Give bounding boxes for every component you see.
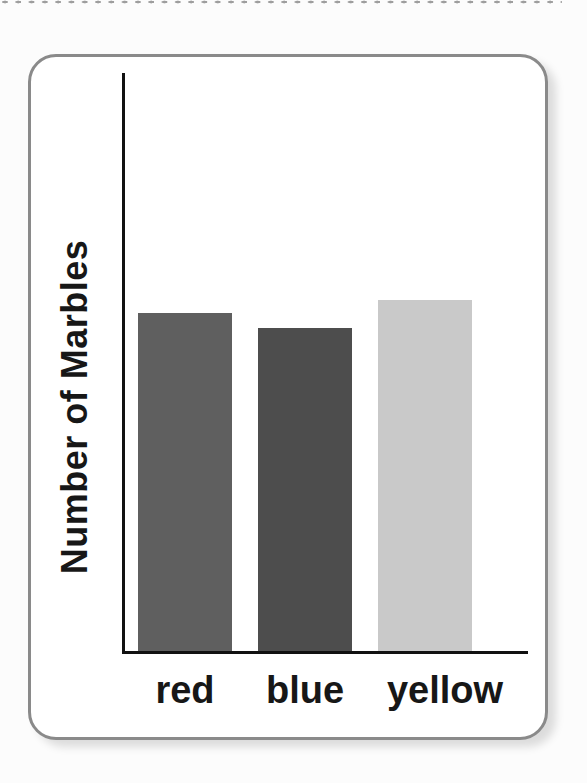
bar-red — [138, 313, 232, 651]
bar-yellow — [378, 300, 472, 651]
bar-chart-plot — [31, 57, 545, 737]
x-axis-labels: redblueyellow — [31, 669, 545, 724]
chart-card: Number of Marbles redblueyellow — [28, 54, 548, 740]
page-perforation-dots — [2, 0, 562, 6]
x-label-yellow: yellow — [387, 669, 503, 712]
scanned-page: Number of Marbles redblueyellow — [0, 0, 587, 783]
bar-chart: Number of Marbles redblueyellow — [31, 57, 545, 737]
x-label-red: red — [155, 669, 214, 712]
bar-blue — [258, 328, 352, 651]
x-label-blue: blue — [266, 669, 344, 712]
